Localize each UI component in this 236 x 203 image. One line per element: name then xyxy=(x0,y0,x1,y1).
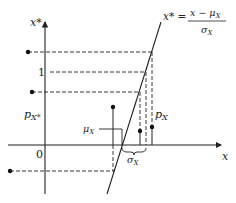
p-x-label: pX xyxy=(155,108,168,122)
sigma-x-label: σX xyxy=(127,154,140,167)
equation-denominator: σX xyxy=(201,24,214,37)
sigma-brace xyxy=(122,148,146,155)
equation-lhs: x* = xyxy=(163,10,186,22)
unit-tick-label: 1 xyxy=(38,66,45,79)
mu-x-label: μX xyxy=(83,123,95,136)
origin-label: 0 xyxy=(36,148,43,161)
standardization-diagram: x* x 0 1 x* = x − μX σX pX* μX σX pX xyxy=(0,0,236,203)
mu-marker xyxy=(99,129,122,145)
horizontal-axis-label: x xyxy=(222,150,229,163)
equation-numerator: x − μX xyxy=(190,7,222,20)
diagram-canvas: x* x 0 1 x* = x − μX σX pX* μX σX pX xyxy=(0,0,236,203)
transform-line xyxy=(107,22,161,194)
p-x-star-label: pX* xyxy=(24,108,41,122)
vertical-axis-label: x* xyxy=(30,16,42,29)
